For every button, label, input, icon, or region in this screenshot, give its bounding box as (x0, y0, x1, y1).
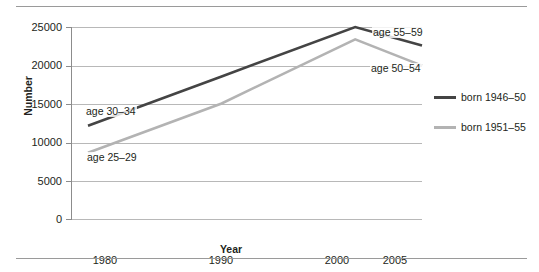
bottom-horizontal-rule (16, 258, 527, 259)
legend-label-born-1951-55: born 1951–55 (461, 121, 526, 133)
legend-swatch-born-1951-55 (434, 126, 456, 129)
y-tick-label-20000: 20000 (10, 60, 62, 71)
line-born-1946-50 (88, 27, 422, 126)
y-tick-label-0: 0 (10, 214, 62, 225)
x-axis-title: Year (196, 243, 266, 255)
x-tick-label-2005: 2005 (365, 255, 425, 266)
x-tick-label-1980: 1980 (75, 255, 135, 266)
y-tick-label-5000: 5000 (10, 176, 62, 187)
legend-swatch-born-1946-50 (434, 96, 456, 99)
annotation-age-25-29: age 25–29 (86, 152, 138, 163)
y-tick-label-10000: 10000 (10, 137, 62, 148)
legend-item-born-1946-50[interactable]: born 1946–50 (434, 89, 538, 119)
legend-item-born-1951-55[interactable]: born 1951–55 (434, 119, 538, 149)
top-horizontal-rule (16, 6, 527, 7)
annotation-age-50-54: age 50–54 (370, 63, 422, 74)
chart-figure: Number 25000 20000 15000 10000 5000 0 19… (0, 0, 539, 272)
annotation-age-30-34: age 30–34 (85, 106, 137, 117)
x-tick-label-2000: 2000 (307, 255, 367, 266)
x-tick-label-1990: 1990 (191, 255, 251, 266)
annotation-age-55-59: age 55–59 (372, 27, 424, 38)
line-born-1951-55 (88, 39, 422, 152)
series-lines (71, 27, 422, 220)
y-tick-label-15000: 15000 (10, 99, 62, 110)
legend-label-born-1946-50: born 1946–50 (461, 91, 526, 103)
chart-legend: born 1946–50 born 1951–55 (434, 89, 538, 149)
plot-area: 1980 1990 2000 2005 (71, 27, 422, 220)
y-tick-label-25000: 25000 (10, 22, 62, 33)
